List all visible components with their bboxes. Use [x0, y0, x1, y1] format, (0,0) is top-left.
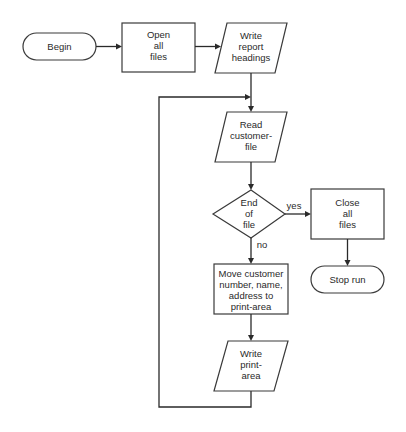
node-eof-line-3: file [243, 219, 255, 230]
edge-close-stop [345, 239, 351, 266]
node-headings: Write report headings [215, 23, 287, 73]
node-move-line-2: number, name, [219, 279, 282, 290]
node-read-line-2: customer- [230, 130, 272, 141]
node-begin: Begin [23, 33, 96, 60]
node-move-line-3: address to [229, 290, 273, 301]
arrowhead-icon [116, 44, 122, 50]
arrowhead-icon [305, 211, 311, 217]
arrowhead-icon [248, 335, 254, 341]
node-eof: End of file [213, 190, 285, 238]
flowchart-canvas: Begin Open all files Write report headin… [0, 0, 406, 432]
node-open-line-1: Open [147, 29, 170, 40]
edge-open-headings [195, 44, 221, 50]
arrowhead-icon [215, 44, 221, 50]
node-read-line-3: file [245, 141, 257, 152]
node-write: Write print- area [214, 341, 288, 391]
node-read: Read customer- file [215, 112, 287, 162]
edge-eof-close: yes [285, 200, 311, 217]
node-stop-label: Stop run [330, 274, 366, 285]
edge-move-write [248, 314, 254, 341]
arrowhead-icon [248, 184, 254, 190]
edge-read-eof [248, 162, 254, 190]
node-headings-line-3: headings [232, 52, 271, 63]
node-open: Open all files [122, 23, 195, 72]
node-close-line-1: Close [335, 197, 359, 208]
edge-label-yes: yes [287, 200, 302, 211]
flowchart: Begin Open all files Write report headin… [0, 0, 406, 432]
node-close-line-3: files [339, 219, 356, 230]
node-move-line-1: Move customer [219, 268, 284, 279]
edge-eof-move: no [248, 238, 267, 264]
edge-label-no: no [257, 239, 268, 250]
arrowhead-icon [245, 94, 251, 100]
node-eof-line-1: End [241, 197, 258, 208]
arrowhead-icon [248, 106, 254, 112]
node-begin-label: Begin [47, 41, 71, 52]
node-move: Move customer number, name, address to p… [214, 264, 288, 314]
node-write-line-1: Write [240, 348, 262, 359]
node-close: Close all files [311, 189, 384, 239]
arrowhead-icon [248, 258, 254, 264]
node-close-line-2: all [343, 208, 353, 219]
node-open-line-3: files [150, 51, 167, 62]
node-move-line-4: print-area [231, 301, 272, 312]
node-eof-line-2: of [245, 208, 253, 219]
node-write-line-3: area [241, 370, 261, 381]
node-stop: Stop run [311, 266, 384, 293]
node-open-line-2: all [154, 40, 164, 51]
node-read-line-1: Read [240, 119, 263, 130]
edge-begin-open [96, 44, 122, 50]
node-headings-line-1: Write [240, 30, 262, 41]
arrowhead-icon [345, 260, 351, 266]
node-headings-line-2: report [239, 41, 264, 52]
edge-headings-read [248, 73, 254, 112]
node-write-line-2: print- [240, 359, 262, 370]
